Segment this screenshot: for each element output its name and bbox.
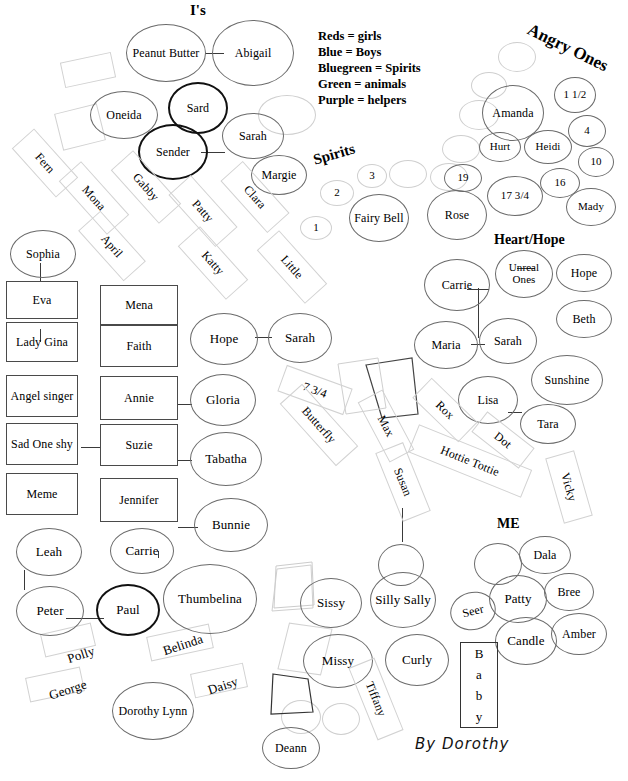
node-annie[interactable]: Annie bbox=[100, 376, 178, 420]
heading-heart-hope: Heart/Hope bbox=[494, 232, 565, 248]
connector bbox=[24, 570, 25, 590]
node-lady-gina[interactable]: Lady Gina bbox=[6, 322, 78, 362]
node-mena[interactable]: Mena bbox=[100, 285, 178, 325]
node-beth[interactable]: Beth bbox=[556, 300, 612, 338]
node-faith[interactable]: Faith bbox=[100, 325, 178, 367]
node-sunshine[interactable]: Sunshine bbox=[531, 355, 603, 405]
empty-ellipse bbox=[322, 703, 360, 735]
node-patty-me[interactable]: Patty bbox=[489, 575, 547, 623]
node-candle[interactable]: Candle bbox=[495, 617, 557, 665]
heading-is: I's bbox=[190, 2, 206, 19]
empty-ellipse bbox=[389, 160, 427, 188]
node-tara[interactable]: Tara bbox=[520, 404, 576, 444]
node-rose[interactable]: Rose bbox=[427, 190, 487, 240]
node-sad-one-shy[interactable]: Sad One shy bbox=[6, 423, 78, 465]
legend-line-5: Purple = helpers bbox=[318, 92, 406, 109]
node-silly-sally[interactable]: Silly Sally bbox=[370, 572, 436, 628]
node-little[interactable]: Little bbox=[257, 230, 327, 304]
node-hurt[interactable]: Hurt bbox=[479, 132, 521, 162]
baby-letter-b: B bbox=[475, 646, 484, 662]
node-baby-box[interactable]: B a b y bbox=[460, 642, 498, 728]
connector bbox=[81, 447, 101, 448]
node-unreal-ones[interactable]: Unreal Ones bbox=[495, 250, 553, 298]
node-abigail[interactable]: Abigail bbox=[212, 20, 294, 86]
node-sarah-top[interactable]: Sarah bbox=[222, 113, 284, 159]
node-peanut-butter[interactable]: Peanut Butter bbox=[126, 24, 206, 82]
node-carrie-bottom[interactable]: Carrie bbox=[110, 528, 174, 574]
baby-letter-b2: b bbox=[476, 688, 483, 704]
node-four[interactable]: 4 bbox=[568, 115, 606, 147]
baby-letter-y: y bbox=[476, 709, 483, 725]
empty-ellipse bbox=[498, 42, 536, 72]
node-sarah-heart[interactable]: Sarah bbox=[479, 318, 537, 364]
node-eva[interactable]: Eva bbox=[6, 281, 78, 319]
node-nineteen[interactable]: 19 bbox=[444, 164, 482, 192]
node-bree[interactable]: Bree bbox=[544, 573, 594, 611]
node-amber[interactable]: Amber bbox=[551, 613, 607, 655]
node-suzie[interactable]: Suzie bbox=[100, 424, 178, 466]
node-ten[interactable]: 10 bbox=[578, 147, 614, 177]
node-deann[interactable]: Deann bbox=[262, 727, 320, 769]
node-maria[interactable]: Maria bbox=[414, 321, 478, 369]
node-curly[interactable]: Curly bbox=[385, 634, 449, 686]
node-dala[interactable]: Dala bbox=[519, 536, 571, 574]
node-fairy-bell[interactable]: Fairy Bell bbox=[349, 194, 409, 242]
node-gloria[interactable]: Gloria bbox=[190, 374, 256, 426]
node-jennifer[interactable]: Jennifer bbox=[100, 478, 178, 522]
heading-me: ME bbox=[497, 516, 520, 532]
node-vicky[interactable]: Vicky bbox=[545, 450, 593, 524]
node-dorothy-lynn[interactable]: Dorothy Lynn bbox=[112, 682, 194, 740]
node-tabatha[interactable]: Tabatha bbox=[190, 432, 262, 486]
node-carrie-heart[interactable]: Carrie bbox=[424, 259, 490, 311]
node-paul[interactable]: Paul bbox=[96, 584, 160, 636]
node-peter[interactable]: Peter bbox=[16, 586, 84, 636]
signature: By Dorothy bbox=[415, 735, 509, 753]
node-mady[interactable]: Mady bbox=[566, 188, 616, 226]
empty-ellipse bbox=[442, 135, 480, 163]
node-spirit-3[interactable]: 3 bbox=[357, 164, 387, 188]
heading-angry-ones: Angry Ones bbox=[524, 20, 611, 76]
baby-letter-a: a bbox=[476, 667, 482, 683]
node-bunnie[interactable]: Bunnie bbox=[194, 498, 268, 552]
node-seventeen-three-quarters[interactable]: 17 3/4 bbox=[487, 176, 543, 216]
legend-line-2: Blue = Boys bbox=[318, 44, 381, 61]
node-one-and-half[interactable]: 1 1/2 bbox=[554, 77, 596, 113]
node-sophia[interactable]: Sophia bbox=[10, 230, 76, 278]
node-heidi[interactable]: Heidi bbox=[524, 130, 572, 164]
legend-line-1: Reds = girls bbox=[318, 28, 381, 45]
node-sarah-center[interactable]: Sarah bbox=[268, 313, 332, 363]
legend-line-3: Bluegreen = Spirits bbox=[318, 60, 421, 77]
legend-line-4: Green = animals bbox=[318, 76, 406, 93]
node-spirit-2[interactable]: 2 bbox=[320, 180, 354, 206]
diagram-canvas: I's Reds = girls Blue = Boys Bluegreen =… bbox=[0, 0, 628, 781]
empty-rect bbox=[60, 52, 116, 88]
node-hope-center[interactable]: Hope bbox=[190, 313, 258, 365]
node-meme[interactable]: Meme bbox=[6, 473, 78, 515]
node-sissy[interactable]: Sissy bbox=[300, 578, 362, 628]
node-leah[interactable]: Leah bbox=[16, 528, 82, 576]
node-spirit-1[interactable]: 1 bbox=[300, 216, 332, 240]
heading-spirits: Spirits bbox=[311, 140, 357, 168]
node-angel-singer[interactable]: Angel singer bbox=[6, 375, 78, 417]
node-hope-heart[interactable]: Hope bbox=[556, 254, 612, 292]
